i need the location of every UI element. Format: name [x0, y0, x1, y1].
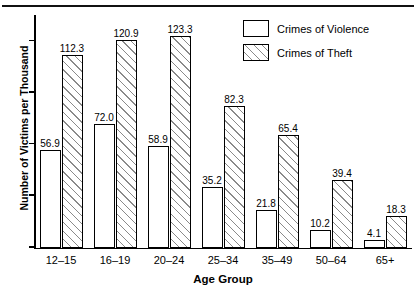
bar-value-label: 72.0: [94, 113, 113, 123]
bar-violence: 4.1: [364, 240, 385, 247]
bar-value-label: 123.3: [167, 25, 192, 35]
bar-value-label: 65.4: [278, 124, 297, 134]
bar-value-label: 21.8: [256, 199, 275, 209]
x-axis-tick-label: 35–49: [262, 254, 293, 266]
x-axis-tick-label: 12–15: [46, 254, 77, 266]
bar-violence: 10.2: [310, 230, 331, 248]
bar-theft: 123.3: [170, 36, 191, 248]
bar-value-label: 4.1: [367, 229, 381, 239]
legend-swatch-violence: [243, 20, 269, 37]
x-axis-tick-label: 16–19: [100, 254, 131, 266]
x-axis-title: Age Group: [34, 273, 412, 285]
bar-theft: 39.4: [332, 180, 353, 248]
bar-value-label: 58.9: [148, 135, 167, 145]
x-axis-tick-label: 20–24: [154, 254, 185, 266]
bar-violence: 72.0: [94, 124, 115, 248]
bar-violence: 21.8: [256, 210, 277, 247]
bar-value-label: 10.2: [310, 219, 329, 229]
bar-group: 56.9112.3: [40, 16, 83, 248]
legend-label-theft: Crimes of Theft: [277, 47, 352, 59]
bar-chart: Number of Victims per Thousand 56.9112.3…: [0, 0, 416, 298]
x-axis-tick-label: 50–64: [316, 254, 347, 266]
bar-violence: 58.9: [148, 146, 169, 247]
bar-value-label: 56.9: [40, 139, 59, 149]
bar-value-label: 18.3: [386, 205, 405, 215]
bar-theft: 120.9: [116, 40, 137, 248]
bar-violence: 56.9: [40, 150, 61, 248]
bar-value-label: 39.4: [332, 169, 351, 179]
legend-label-violence: Crimes of Violence: [277, 23, 369, 35]
bar-theft: 65.4: [278, 135, 299, 247]
bar-violence: 35.2: [202, 187, 223, 247]
legend-item-theft: Crimes of Theft: [243, 44, 413, 61]
top-divider-rule: [2, 5, 414, 7]
bar-group: 72.0120.9: [94, 16, 137, 248]
legend-item-violence: Crimes of Violence: [243, 20, 413, 37]
x-axis-tick-label: 65+: [376, 254, 395, 266]
bar-value-label: 35.2: [202, 176, 221, 186]
bar-theft: 82.3: [224, 106, 245, 247]
x-axis-tick-label: 25–34: [208, 254, 239, 266]
bar-group: 58.9123.3: [148, 16, 191, 248]
bar-theft: 18.3: [386, 216, 407, 247]
x-axis-line: [34, 248, 412, 250]
y-axis-title: Number of Victims per Thousand: [18, 18, 30, 238]
bar-theft: 112.3: [62, 55, 83, 248]
bar-value-label: 120.9: [113, 29, 138, 39]
bar-group: 35.282.3: [202, 16, 245, 248]
x-axis-tick-labels: 12–1516–1920–2425–3435–4950–6465+: [34, 254, 412, 270]
bar-value-label: 82.3: [224, 95, 243, 105]
legend-swatch-theft: [243, 44, 269, 61]
bar-value-label: 112.3: [60, 44, 84, 54]
chart-legend: Crimes of Violence Crimes of Theft: [243, 20, 413, 68]
